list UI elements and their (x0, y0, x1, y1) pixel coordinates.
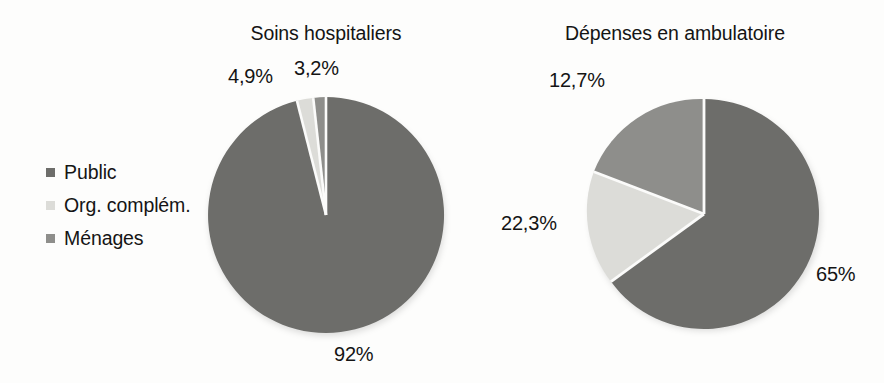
square-swatch-icon (46, 201, 55, 210)
square-swatch-icon (46, 234, 55, 243)
pie-value-label-public: 65% (816, 264, 855, 284)
figure-canvas: Public Org. complém. Ménages Soins hospi… (0, 0, 884, 383)
pie-value-label-org-complem: 4,9% (228, 66, 273, 86)
chart-title: Dépenses en ambulatoire (565, 24, 884, 44)
pie-value-label-org-complem: 22,3% (501, 213, 557, 233)
legend-label-org-complem: Org. complém. (64, 196, 191, 216)
chart-depenses-ambulatoire: Dépenses en ambulatoire (520, 0, 884, 383)
pie-depenses-ambulatoire (586, 96, 822, 332)
legend-label-public: Public (64, 163, 117, 183)
pie-value-label-public: 92% (334, 344, 373, 364)
legend-label-menages: Ménages (64, 229, 144, 249)
pie-soins-hospitaliers (205, 94, 447, 336)
square-swatch-icon (46, 168, 55, 177)
chart-title: Soins hospitaliers (186, 24, 466, 44)
pie-value-label-menages: 3,2% (294, 58, 339, 78)
pie-value-label-menages: 12,7% (549, 70, 605, 90)
chart-soins-hospitaliers: Soins hospitaliers (186, 0, 466, 383)
